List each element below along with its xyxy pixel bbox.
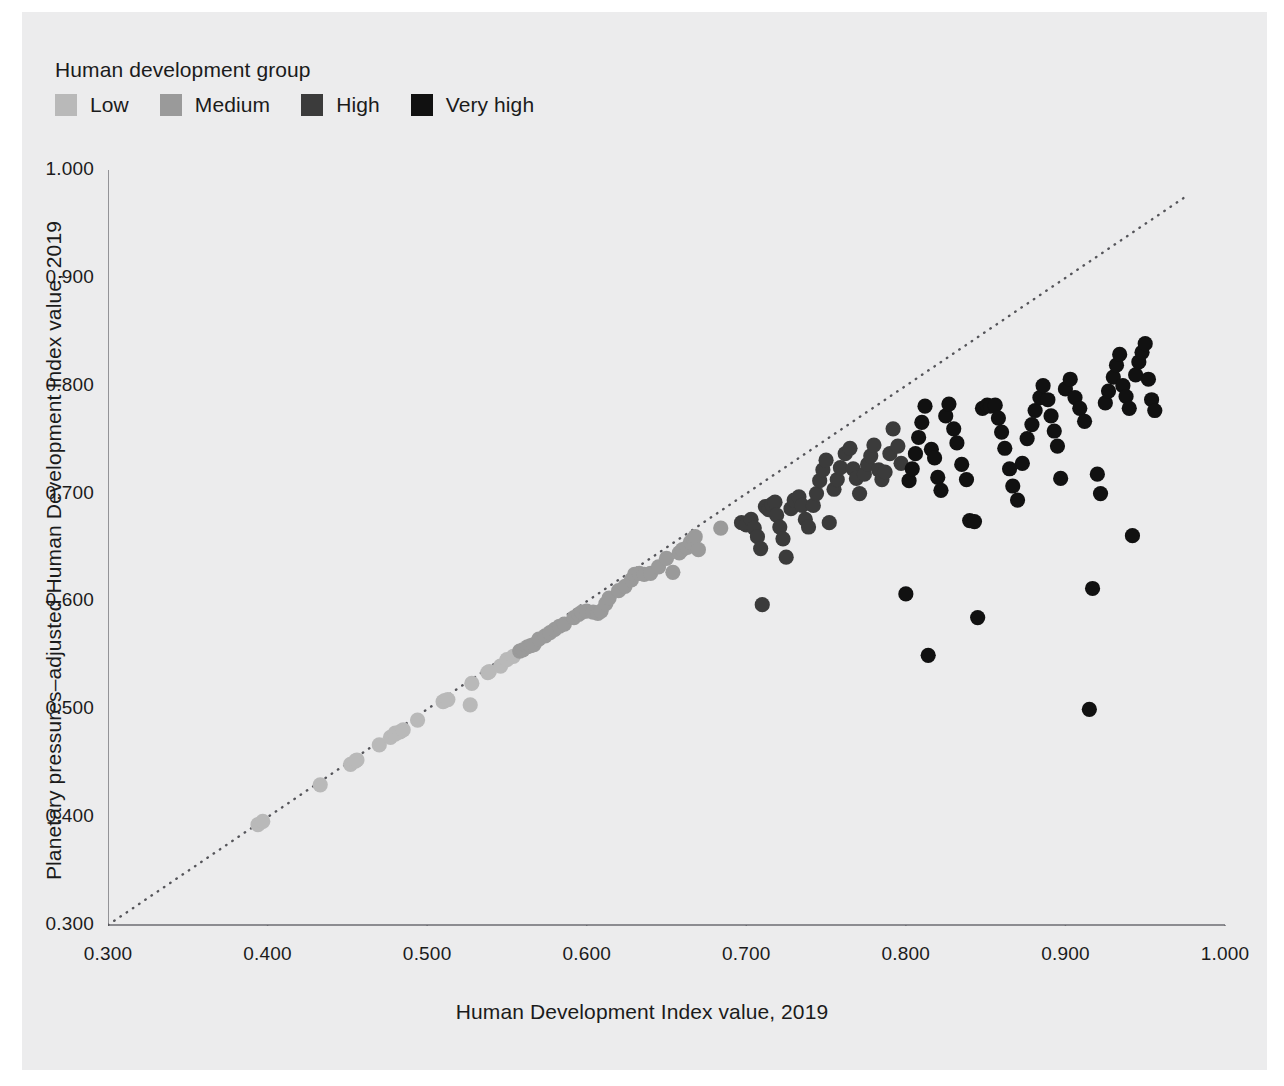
data-point[interactable] xyxy=(890,439,905,454)
data-point[interactable] xyxy=(997,441,1012,456)
data-point[interactable] xyxy=(755,597,770,612)
data-point[interactable] xyxy=(908,446,923,461)
data-point[interactable] xyxy=(885,421,900,436)
data-point[interactable] xyxy=(959,472,974,487)
data-point[interactable] xyxy=(842,441,857,456)
x-tick-label: 0.300 xyxy=(53,943,163,965)
x-axis-title: Human Development Index value, 2019 xyxy=(0,1000,1284,1024)
data-point[interactable] xyxy=(1063,372,1078,387)
data-point[interactable] xyxy=(440,692,455,707)
data-point[interactable] xyxy=(878,464,893,479)
identity-reference-line xyxy=(108,197,1185,925)
data-point[interactable] xyxy=(1147,403,1162,418)
data-point[interactable] xyxy=(463,697,478,712)
legend-entry-low[interactable]: Low xyxy=(55,93,129,117)
data-point[interactable] xyxy=(921,648,936,663)
data-point[interactable] xyxy=(713,520,728,535)
data-point[interactable] xyxy=(809,486,824,501)
plot-area: 0.3000.4000.5000.6000.7000.8000.9001.000… xyxy=(108,170,1225,925)
data-point[interactable] xyxy=(1050,439,1065,454)
data-point[interactable] xyxy=(313,777,328,792)
data-point[interactable] xyxy=(905,461,920,476)
chart-page: Human development group LowMediumHighVer… xyxy=(0,0,1284,1086)
y-tick-label: 0.800 xyxy=(24,374,94,396)
data-point[interactable] xyxy=(988,398,1003,413)
data-point[interactable] xyxy=(954,457,969,472)
data-point[interactable] xyxy=(665,565,680,580)
data-point[interactable] xyxy=(967,514,982,529)
data-point[interactable] xyxy=(822,515,837,530)
data-point[interactable] xyxy=(1125,528,1140,543)
data-point[interactable] xyxy=(1141,372,1156,387)
data-point[interactable] xyxy=(1005,478,1020,493)
data-point[interactable] xyxy=(1028,403,1043,418)
data-point[interactable] xyxy=(914,415,929,430)
data-point[interactable] xyxy=(349,752,364,767)
data-point[interactable] xyxy=(779,550,794,565)
data-point[interactable] xyxy=(753,541,768,556)
legend-entry-medium[interactable]: Medium xyxy=(160,93,270,117)
y-tick-label: 0.600 xyxy=(24,589,94,611)
data-point[interactable] xyxy=(852,486,867,501)
data-point[interactable] xyxy=(1035,378,1050,393)
data-point[interactable] xyxy=(949,435,964,450)
y-tick-label: 0.400 xyxy=(24,805,94,827)
x-tick-label: 1.000 xyxy=(1170,943,1280,965)
data-point[interactable] xyxy=(930,470,945,485)
data-point[interactable] xyxy=(1010,492,1025,507)
data-point[interactable] xyxy=(898,586,913,601)
data-point[interactable] xyxy=(927,450,942,465)
data-point[interactable] xyxy=(970,610,985,625)
data-point[interactable] xyxy=(1040,392,1055,407)
y-tick-label: 0.300 xyxy=(24,913,94,935)
y-tick-label: 1.000 xyxy=(24,158,94,180)
data-point[interactable] xyxy=(917,399,932,414)
x-tick-label: 0.900 xyxy=(1010,943,1120,965)
y-axis-title: Planetary pressures–adjusted Human Devel… xyxy=(42,221,66,880)
legend-entry-label: Medium xyxy=(195,93,270,117)
data-point[interactable] xyxy=(1024,417,1039,432)
data-point[interactable] xyxy=(911,430,926,445)
data-point[interactable] xyxy=(1015,456,1030,471)
data-point[interactable] xyxy=(410,712,425,727)
legend-entry-label: High xyxy=(336,93,380,117)
data-point[interactable] xyxy=(1043,408,1058,423)
data-point[interactable] xyxy=(1138,336,1153,351)
data-point[interactable] xyxy=(1093,486,1108,501)
legend-swatch-icon xyxy=(160,94,182,116)
legend-entry-label: Low xyxy=(90,93,129,117)
data-point[interactable] xyxy=(991,410,1006,425)
data-point[interactable] xyxy=(1112,347,1127,362)
data-point[interactable] xyxy=(1047,423,1062,438)
data-point[interactable] xyxy=(396,722,411,737)
legend-entry-high[interactable]: High xyxy=(301,93,380,117)
data-point[interactable] xyxy=(801,519,816,534)
data-point[interactable] xyxy=(866,437,881,452)
data-point[interactable] xyxy=(464,676,479,691)
data-point[interactable] xyxy=(1077,414,1092,429)
legend-swatch-icon xyxy=(55,94,77,116)
data-point[interactable] xyxy=(255,814,270,829)
data-point[interactable] xyxy=(1082,702,1097,717)
data-point[interactable] xyxy=(946,421,961,436)
legend-entry-very-high[interactable]: Very high xyxy=(411,93,534,117)
series-high xyxy=(734,421,909,612)
data-point[interactable] xyxy=(818,453,833,468)
data-point[interactable] xyxy=(1085,581,1100,596)
data-point[interactable] xyxy=(1090,467,1105,482)
data-point[interactable] xyxy=(1072,401,1087,416)
legend-swatch-icon xyxy=(411,94,433,116)
data-point[interactable] xyxy=(1122,401,1137,416)
data-point[interactable] xyxy=(691,542,706,557)
x-tick-label: 0.800 xyxy=(851,943,961,965)
legend-swatch-icon xyxy=(301,94,323,116)
data-point[interactable] xyxy=(941,396,956,411)
data-point[interactable] xyxy=(1053,471,1068,486)
data-point[interactable] xyxy=(1101,384,1116,399)
data-point[interactable] xyxy=(688,529,703,544)
data-point[interactable] xyxy=(1020,431,1035,446)
data-point[interactable] xyxy=(933,483,948,498)
data-point[interactable] xyxy=(775,531,790,546)
data-point[interactable] xyxy=(994,424,1009,439)
data-point[interactable] xyxy=(767,495,782,510)
